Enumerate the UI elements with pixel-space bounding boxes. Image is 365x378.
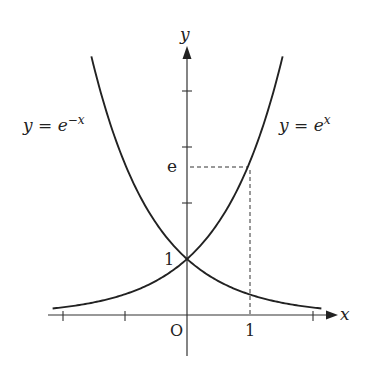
left-curve-label: y = e−x [22,113,85,135]
y-axis-arrow-icon [183,46,192,59]
x-axis-label: x [340,304,350,324]
x-axis-arrow-icon [326,311,338,320]
x-one-label: 1 [245,321,255,340]
e-tick-label: e [167,156,177,176]
y-axis-label: y [179,24,190,44]
x-ticks [63,311,313,321]
origin-label: O [170,321,183,340]
axes [48,56,330,356]
exponential-graph: y x O 1 1 e y = e−x y = ex [0,0,365,378]
y-one-label: 1 [164,250,174,269]
curve-e-neg-x [91,56,321,308]
right-curve-label: y = ex [278,113,331,135]
dashed-guides [190,167,250,315]
curve-e-x [53,56,283,308]
